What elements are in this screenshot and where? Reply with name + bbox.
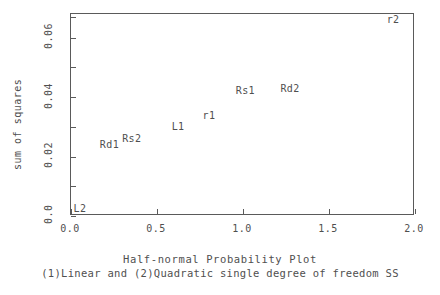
x-axis-tick: [157, 209, 158, 214]
data-point-label: L1: [172, 122, 185, 132]
x-axis-tick-label: 1.0: [222, 223, 262, 234]
y-axis-tick-label: 0.06: [43, 23, 54, 49]
chart-title: Half-normal Probability Plot: [0, 252, 440, 266]
x-axis-tick-label: 2.0: [394, 223, 434, 234]
y-axis-tick: [71, 216, 76, 217]
data-point-label: L2: [74, 204, 87, 214]
x-axis-tick-label: 0.0: [50, 223, 90, 234]
y-axis-tick-label: 0.0: [43, 205, 54, 225]
y-axis-tick-label: 0.04: [43, 82, 54, 108]
x-axis-tick-label: 1.5: [308, 223, 348, 234]
x-axis-tick: [243, 209, 244, 214]
chart-title-block: Half-normal Probability Plot (1)Linear a…: [0, 252, 440, 280]
data-point-label: Rd1: [100, 140, 119, 150]
data-point-label: r1: [203, 111, 216, 121]
y-axis-tick: [71, 186, 76, 187]
y-axis-tick: [71, 38, 76, 39]
chart-subtitle: (1)Linear and (2)Quadratic single degree…: [0, 266, 440, 280]
data-point-label: Rs1: [236, 86, 255, 96]
y-axis-tick: [71, 127, 76, 128]
y-axis-title: sum of squares: [12, 79, 23, 170]
y-axis-tick: [71, 157, 76, 158]
x-axis-tick: [329, 209, 330, 214]
y-axis-tick: [71, 67, 76, 68]
x-axis-tick-label: 0.5: [136, 223, 176, 234]
chart-screenshot: sum of squares 0.00.020.040.06 L2Rd1Rs2L…: [0, 0, 440, 295]
y-axis-tick: [71, 17, 76, 18]
data-point-label: Rs2: [122, 134, 141, 144]
x-axis-tick: [71, 209, 72, 214]
y-axis-tick-label: 0.02: [43, 142, 54, 168]
y-axis-tick: [71, 97, 76, 98]
plot-area: L2Rd1Rs2L1r1Rs1Rd2r2: [70, 13, 414, 215]
x-axis-tick: [415, 209, 416, 214]
data-point-label: r2: [387, 15, 400, 25]
data-point-label: Rd2: [280, 84, 299, 94]
